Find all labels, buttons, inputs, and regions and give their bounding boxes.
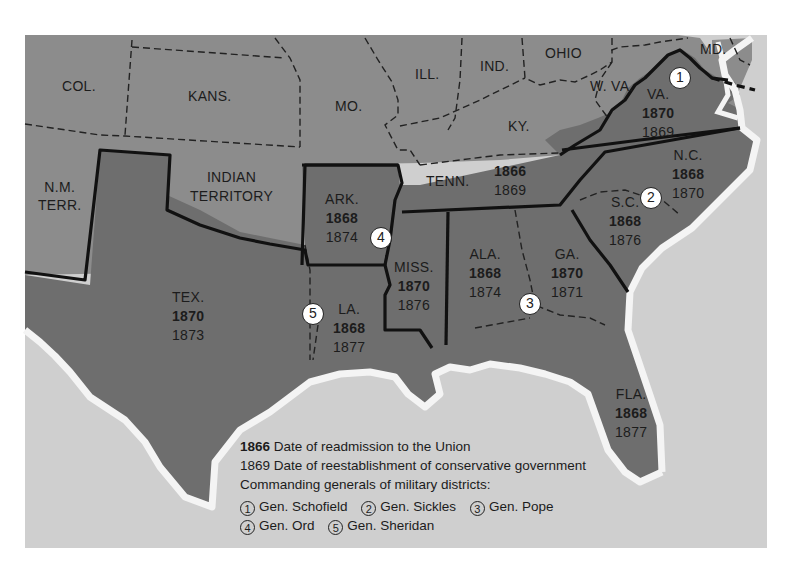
- label-sc: S.C.18681876: [609, 193, 641, 250]
- label-ohio: OHIO: [545, 44, 582, 63]
- district-marker-4: 4: [370, 227, 392, 249]
- label-wva: W. VA.: [590, 77, 634, 96]
- district-marker-2: 2: [640, 187, 662, 209]
- label-ill: ILL.: [415, 65, 440, 84]
- label-mo: MO.: [335, 97, 362, 116]
- label-la: LA.18681877: [333, 300, 365, 357]
- legend-general-5: 5Gen. Sheridan: [328, 518, 434, 533]
- legend-generals-heading: Commanding generals of military district…: [240, 475, 586, 494]
- label-md: MD.: [700, 40, 727, 59]
- district-marker-3: 3: [519, 293, 541, 315]
- label-ga: GA.18701871: [551, 245, 583, 302]
- label-nc: N.C.18681870: [672, 146, 704, 203]
- district-marker-5: 5: [302, 303, 324, 325]
- label-va: VA.18701869: [642, 85, 674, 142]
- legend-general-4: 4Gen. Ord: [240, 518, 315, 533]
- label-col: COL.: [62, 77, 96, 96]
- label-tenn: TENN.: [426, 172, 470, 191]
- label-ind: IND.: [480, 57, 509, 76]
- map-legend: 1866 Date of readmission to the Union 18…: [240, 437, 586, 535]
- legend-general-3: 3Gen. Pope: [470, 499, 554, 514]
- label-kans: KANS.: [188, 87, 232, 106]
- district-marker-1: 1: [669, 67, 691, 89]
- legend-generals-row1: 1Gen. Schofield 2Gen. Sickles 3Gen. Pope: [240, 497, 586, 516]
- legend-general-1: 1Gen. Schofield: [240, 499, 348, 514]
- label-miss: MISS.18701876: [394, 258, 434, 315]
- label-nm-terr: N.M.TERR.: [38, 178, 82, 214]
- label-ark: ARK.18681874: [325, 190, 359, 247]
- legend-readmission: 1866 Date of readmission to the Union: [240, 437, 586, 456]
- label-ky: KY.: [508, 117, 530, 136]
- label-tenn-dates: 18661869: [494, 162, 526, 200]
- label-tex: TEX.18701873: [172, 288, 204, 345]
- label-ala: ALA.18681874: [469, 245, 501, 302]
- label-fla: FLA.18681877: [615, 385, 647, 442]
- legend-generals-row2: 4Gen. Ord 5Gen. Sheridan: [240, 516, 586, 535]
- label-indian-territory: INDIANTERRITORY: [190, 168, 273, 206]
- legend-general-2: 2Gen. Sickles: [361, 499, 456, 514]
- legend-conservative: 1869 Date of reestablishment of conserva…: [240, 456, 586, 475]
